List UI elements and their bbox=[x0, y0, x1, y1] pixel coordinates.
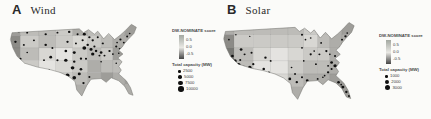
size-legend-label: 7500 bbox=[185, 81, 194, 85]
score-gradient-row: 0.50.0-0.5 bbox=[179, 35, 214, 59]
size-legend-dot-icon bbox=[178, 86, 184, 92]
size-legend-label: 2000 bbox=[391, 80, 400, 84]
gradient-tick-label: 0.5 bbox=[393, 43, 400, 47]
panel-letter-b: B bbox=[227, 2, 236, 17]
us-choropleth-map-solar bbox=[215, 20, 389, 110]
size-legend-label: 3000 bbox=[393, 86, 402, 90]
gradient-tick-label: -0.5 bbox=[186, 52, 193, 56]
size-legend-dot-icon bbox=[178, 70, 181, 73]
size-legend-label: 10000 bbox=[186, 87, 198, 91]
size-legend-title: Total capacity (MW) bbox=[172, 62, 214, 67]
legend-wind: DW-NOMINATE score 0.50.0-0.5 Total capac… bbox=[172, 28, 214, 92]
gradient-tick-label: 0.0 bbox=[186, 45, 193, 49]
legend-solar: DW-NOMINATE score 0.50.0-0.5 Total capac… bbox=[379, 33, 429, 91]
us-choropleth-map-wind bbox=[2, 22, 170, 106]
panel-letter-a: A bbox=[12, 2, 21, 17]
score-gradient-bar bbox=[179, 35, 184, 59]
size-legend-title: Total capacity (MW) bbox=[379, 67, 429, 72]
panel-solar-title: B Solar bbox=[227, 2, 271, 17]
gradient-tick-label: -0.5 bbox=[393, 57, 400, 61]
size-legend-rows: 100020003000 bbox=[385, 74, 429, 91]
size-legend-dot-icon bbox=[178, 81, 183, 86]
panel-word-solar: Solar bbox=[245, 4, 270, 16]
score-legend-title: DW-NOMINATE score bbox=[379, 33, 429, 38]
score-legend-title: DW-NOMINATE score bbox=[172, 28, 214, 33]
size-legend-dot-icon bbox=[385, 85, 390, 90]
size-legend-dot-icon bbox=[385, 80, 389, 84]
size-legend-dot-icon bbox=[385, 75, 388, 78]
size-legend-dot-icon bbox=[178, 75, 182, 79]
score-gradient-ticks: 0.50.0-0.5 bbox=[393, 40, 400, 64]
size-legend-label: 5000 bbox=[184, 75, 193, 79]
gradient-tick-label: 0.0 bbox=[393, 50, 400, 54]
score-gradient-bar bbox=[386, 40, 391, 64]
size-legend-label: 1000 bbox=[390, 74, 399, 78]
size-legend-rows: 25005000750010000 bbox=[178, 69, 214, 92]
score-gradient-ticks: 0.50.0-0.5 bbox=[186, 35, 193, 59]
panel-wind-title: A Wind bbox=[12, 2, 56, 17]
size-legend-item: 10000 bbox=[178, 86, 214, 92]
panel-wind: A Wind DW-NOMINATE score 0.50.0-0.5 Tota… bbox=[0, 0, 215, 119]
gradient-tick-label: 0.5 bbox=[186, 38, 193, 42]
panel-word-wind: Wind bbox=[30, 4, 56, 16]
score-gradient-row: 0.50.0-0.5 bbox=[386, 40, 429, 64]
figure-wind-solar-maps: A Wind DW-NOMINATE score 0.50.0-0.5 Tota… bbox=[0, 0, 431, 119]
panel-solar: B Solar DW-NOMINATE score 0.50.0-0.5 Tot… bbox=[215, 0, 431, 119]
size-legend-label: 2500 bbox=[183, 69, 192, 73]
size-legend-item: 3000 bbox=[385, 85, 429, 91]
